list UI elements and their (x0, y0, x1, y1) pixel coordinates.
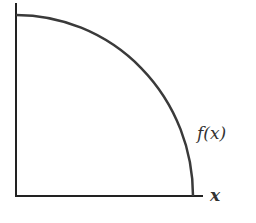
x-axis-label: x (209, 185, 221, 205)
diagram-canvas: f(x) x (0, 0, 256, 223)
curve-label: f(x) (195, 123, 226, 143)
curve-f-of-x (16, 15, 193, 196)
